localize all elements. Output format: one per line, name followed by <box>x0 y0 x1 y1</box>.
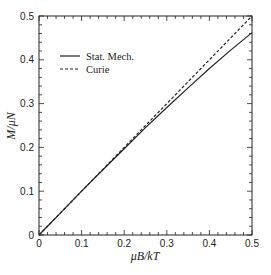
legend-label-curie: Curie <box>86 64 110 75</box>
tick-labels: 00.10.20.30.40.500.10.20.30.40.5 <box>20 11 259 250</box>
y-tick-label: 0.3 <box>20 98 34 109</box>
legend: Stat. Mech. Curie <box>60 51 134 75</box>
y-tick-label: 0.2 <box>20 142 34 153</box>
legend-label-stat-mech: Stat. Mech. <box>86 51 134 62</box>
y-tick-label: 0 <box>28 230 34 241</box>
x-tick-label: 0.3 <box>160 238 174 249</box>
y-tick-label: 0.5 <box>20 11 34 22</box>
x-tick-label: 0 <box>36 238 42 249</box>
x-tick-label: 0.2 <box>117 238 131 249</box>
y-tick-label: 0.4 <box>20 54 34 65</box>
x-tick-label: 0.5 <box>245 238 259 249</box>
data-series <box>39 16 252 235</box>
magnetization-chart: 00.10.20.30.40.500.10.20.30.40.5 Stat. M… <box>0 0 271 275</box>
x-tick-label: 0.4 <box>202 238 216 249</box>
series-curie <box>39 16 252 235</box>
y-tick-label: 0.1 <box>20 186 34 197</box>
series-stat-mech <box>39 33 252 235</box>
x-tick-label: 0.1 <box>75 238 89 249</box>
x-axis-label: μB/kT <box>130 249 161 263</box>
y-axis-label: M/μN <box>4 111 18 140</box>
